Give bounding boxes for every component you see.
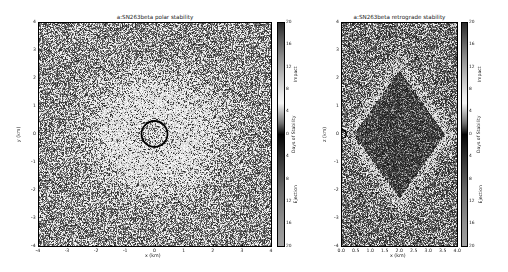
x-tick-mark — [457, 245, 458, 247]
colorbar-tick-label: 4 — [469, 154, 472, 158]
colorbar-tick-label: 16 — [286, 221, 292, 225]
y-tick-label: 3 — [33, 48, 36, 53]
colorbar-tick-label: 16 — [286, 42, 292, 46]
polar-heatmap — [38, 22, 272, 247]
colorbar-tick-label: 4 — [286, 154, 289, 158]
x-tick-mark — [242, 245, 243, 247]
x-tick-mark — [155, 245, 156, 247]
x-tick-label: 1.0 — [367, 249, 374, 254]
retrograde-colorbar-label-ejection: Ejection — [479, 185, 484, 203]
colorbar-tick-label: 0 — [469, 132, 472, 136]
polar-colorbar-label-impact: Impact — [294, 66, 299, 82]
x-tick-mark — [385, 245, 386, 247]
polar-chart-title: a:SN263beta polar stability — [38, 14, 272, 20]
polar-heatmap-canvas — [39, 23, 271, 246]
colorbar-tick-label: 4 — [469, 109, 472, 113]
x-tick-mark — [370, 245, 371, 247]
retrograde-colorbar-label-impact: Impact — [478, 66, 483, 82]
polar-x-axis-label: x (km) — [145, 254, 161, 259]
x-tick-mark — [271, 245, 272, 247]
x-tick-mark — [356, 245, 357, 247]
y-tick-label: 2 — [336, 76, 339, 81]
colorbar-tick-label: 8 — [469, 87, 472, 91]
y-tick-label: 2 — [33, 76, 36, 81]
y-tick-label: -1 — [334, 160, 339, 165]
retrograde-heatmap — [341, 22, 458, 247]
colorbar-tick-label: 8 — [286, 87, 289, 91]
x-tick-label: 3.5 — [439, 249, 446, 254]
x-tick-mark — [399, 245, 400, 247]
retrograde-colorbar — [461, 22, 468, 247]
x-tick-label: -3 — [65, 249, 70, 254]
y-tick-label: -3 — [334, 216, 339, 221]
y-tick-label: 3 — [336, 48, 339, 53]
y-tick-label: -2 — [31, 188, 36, 193]
colorbar-tick-label: 4 — [286, 109, 289, 113]
colorbar-tick-label: 20 — [469, 244, 475, 248]
y-tick-label: 4 — [33, 20, 36, 25]
colorbar-tick-label: 20 — [286, 20, 292, 24]
colorbar-tick-label: 0 — [286, 132, 289, 136]
x-tick-label: 4 — [270, 249, 273, 254]
colorbar-tick-label: 12 — [469, 65, 475, 69]
y-tick-label: -4 — [334, 244, 339, 249]
x-tick-label: -4 — [36, 249, 41, 254]
y-tick-label: -2 — [334, 188, 339, 193]
polar-colorbar — [277, 22, 285, 247]
x-tick-label: 2.5 — [410, 249, 417, 254]
colorbar-tick-label: 20 — [286, 244, 292, 248]
x-tick-mark — [341, 245, 342, 247]
polar-colorbar-label-days: Days of Stability — [292, 115, 297, 153]
y-tick-label: 1 — [33, 104, 36, 109]
x-tick-label: 4.0 — [454, 249, 461, 254]
colorbar-tick-label: 12 — [469, 199, 475, 203]
retrograde-heatmap-canvas — [342, 23, 457, 246]
x-tick-mark — [414, 245, 415, 247]
x-tick-label: 3.0 — [425, 249, 432, 254]
y-tick-label: 0 — [336, 132, 339, 137]
colorbar-tick-label: 12 — [286, 65, 292, 69]
x-tick-mark — [213, 245, 214, 247]
x-tick-label: 3 — [240, 249, 243, 254]
x-tick-label: 0.0 — [338, 249, 345, 254]
x-tick-mark — [428, 245, 429, 247]
y-tick-label: -3 — [31, 216, 36, 221]
polar-y-axis-label: y (km) — [17, 127, 22, 143]
x-tick-label: 1 — [182, 249, 185, 254]
retrograde-x-axis-label: x (km) — [390, 254, 406, 259]
colorbar-tick-label: 12 — [286, 199, 292, 203]
y-tick-label: -4 — [31, 244, 36, 249]
colorbar-tick-label: 16 — [469, 221, 475, 225]
x-tick-label: -2 — [94, 249, 99, 254]
x-tick-mark — [38, 245, 39, 247]
x-tick-mark — [443, 245, 444, 247]
x-tick-label: 1.5 — [381, 249, 388, 254]
y-tick-label: -1 — [31, 160, 36, 165]
x-tick-label: -1 — [123, 249, 128, 254]
x-tick-mark — [67, 245, 68, 247]
x-tick-mark — [125, 245, 126, 247]
colorbar-tick-label: 8 — [469, 177, 472, 181]
retrograde-colorbar-label-days: Days of Stability — [477, 115, 482, 153]
retrograde-y-axis-label: z (km) — [323, 127, 328, 142]
y-tick-label: 4 — [336, 20, 339, 25]
x-tick-mark — [96, 245, 97, 247]
colorbar-tick-label: 20 — [469, 20, 475, 24]
y-tick-label: 1 — [336, 104, 339, 109]
retrograde-chart-title: a:SN263beta retrograde stability — [341, 14, 458, 20]
polar-colorbar-label-ejection: Ejection — [294, 185, 299, 203]
x-tick-label: 2 — [211, 249, 214, 254]
y-tick-label: 0 — [33, 132, 36, 137]
x-tick-label: 0.5 — [352, 249, 359, 254]
x-tick-mark — [184, 245, 185, 247]
colorbar-tick-label: 8 — [286, 177, 289, 181]
colorbar-tick-label: 16 — [469, 42, 475, 46]
